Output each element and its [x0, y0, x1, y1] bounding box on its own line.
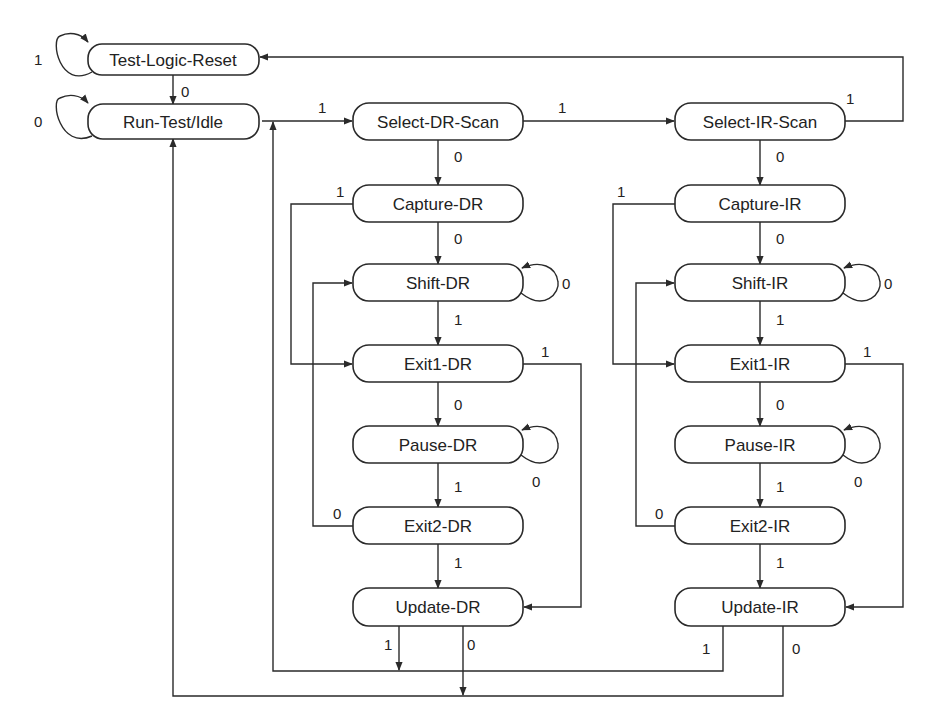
- state-label: Capture-DR: [393, 195, 484, 214]
- label-udr-sdr: 1: [384, 636, 392, 653]
- label-udr-rti: 0: [467, 636, 475, 653]
- edge-pdr-self: [521, 426, 558, 462]
- label-pdr-self: 0: [532, 473, 540, 490]
- state-pause-dr: Pause-DR: [353, 426, 523, 463]
- state-label: Select-DR-Scan: [377, 113, 499, 132]
- state-capture-ir: Capture-IR: [675, 185, 845, 222]
- state-exit1-ir: Exit1-IR: [675, 345, 845, 382]
- edge-rti-self: [56, 95, 92, 138]
- state-select-ir-scan: Select-IR-Scan: [675, 103, 845, 140]
- state-shift-ir: Shift-IR: [675, 264, 845, 301]
- state-run-test-idle: Run-Test/Idle: [88, 104, 259, 139]
- label-e1dr-udr: 1: [541, 343, 549, 360]
- edge-shdr-self: [521, 264, 558, 300]
- state-select-dr-scan: Select-DR-Scan: [353, 103, 523, 140]
- state-exit2-ir: Exit2-IR: [675, 507, 845, 544]
- state-capture-dr: Capture-DR: [353, 185, 523, 222]
- label-sdr-cdr: 0: [454, 148, 462, 165]
- label-rti-self: 0: [34, 113, 42, 130]
- state-update-dr: Update-DR: [353, 588, 523, 626]
- state-label: Update-IR: [721, 598, 798, 617]
- label-shir-e1ir: 1: [776, 311, 784, 328]
- edge-cir-e1ir: [613, 204, 675, 364]
- state-pause-ir: Pause-IR: [675, 426, 845, 463]
- state-label: Pause-IR: [725, 436, 796, 455]
- edge-pir-self: [843, 426, 880, 462]
- state-label: Shift-IR: [732, 274, 789, 293]
- state-label: Capture-IR: [718, 195, 801, 214]
- edge-e2ir-shir: [636, 283, 675, 526]
- label-rti-sdr: 1: [318, 99, 326, 116]
- state-label: Exit1-IR: [730, 355, 790, 374]
- label-cir-shir: 0: [776, 230, 784, 247]
- state-exit1-dr: Exit1-DR: [353, 345, 523, 382]
- state-label: Exit2-DR: [404, 517, 472, 536]
- label-pdr-e2dr: 1: [454, 478, 462, 495]
- state-label: Pause-DR: [399, 436, 477, 455]
- label-e1ir-uir: 1: [863, 343, 871, 360]
- edge-cdr-e1dr: [291, 204, 353, 364]
- state-label: Exit1-DR: [404, 355, 472, 374]
- state-label: Exit2-IR: [730, 517, 790, 536]
- label-e2ir-uir: 1: [776, 554, 784, 571]
- state-label: Run-Test/Idle: [123, 113, 223, 132]
- label-cir-e1ir: 1: [617, 183, 625, 200]
- label-cdr-shdr: 0: [454, 230, 462, 247]
- label-e1ir-pir: 0: [776, 396, 784, 413]
- edge-shir-self: [843, 264, 880, 300]
- state-label: Test-Logic-Reset: [109, 51, 237, 70]
- label-tlr-self: 1: [34, 51, 42, 68]
- label-cdr-e1dr: 1: [336, 183, 344, 200]
- state-label: Update-DR: [395, 598, 480, 617]
- edge-tlr-self: [56, 34, 92, 76]
- label-shdr-self: 0: [562, 275, 570, 292]
- edge-e2dr-shdr: [313, 283, 353, 526]
- label-shir-self: 0: [884, 275, 892, 292]
- label-tlr-rti: 0: [181, 83, 189, 100]
- state-label: Select-IR-Scan: [703, 113, 817, 132]
- label-sdr-sir: 1: [558, 99, 566, 116]
- label-pir-self: 0: [854, 473, 862, 490]
- tap-state-diagram: Test-Logic-Reset Run-Test/Idle Select-DR…: [0, 0, 941, 724]
- label-e1dr-pdr: 0: [454, 396, 462, 413]
- label-sir-tlr: 1: [846, 90, 854, 107]
- label-shdr-e1dr: 1: [454, 311, 462, 328]
- label-sir-cir: 0: [776, 148, 784, 165]
- state-shift-dr: Shift-DR: [353, 264, 523, 301]
- label-pir-e2ir: 1: [776, 478, 784, 495]
- state-exit2-dr: Exit2-DR: [353, 507, 523, 544]
- state-update-ir: Update-IR: [675, 588, 845, 626]
- label-e2dr-udr: 1: [454, 554, 462, 571]
- label-e2ir-shir: 0: [655, 505, 663, 522]
- label-uir-rti: 0: [792, 640, 800, 657]
- label-uir-sdr: 1: [702, 640, 710, 657]
- label-e2dr-shdr: 0: [333, 505, 341, 522]
- state-label: Shift-DR: [406, 274, 470, 293]
- state-test-logic-reset: Test-Logic-Reset: [88, 44, 259, 75]
